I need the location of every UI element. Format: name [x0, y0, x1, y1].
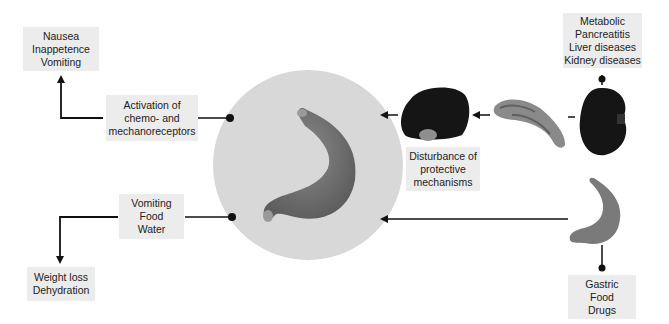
box-line: Inappetence: [23, 43, 99, 56]
kidney-icon: [580, 88, 627, 155]
box-line: protective: [406, 163, 480, 176]
box-line: Weight loss: [27, 271, 95, 284]
box-line: Kidney diseases: [563, 54, 642, 67]
box-line: Gastric: [568, 278, 636, 291]
connector-dot: [226, 114, 234, 122]
liver-icon: [401, 88, 469, 141]
connector-dot: [599, 265, 606, 272]
center-circle: [213, 70, 403, 260]
box-line: Pancreatitis: [563, 28, 642, 41]
gastric-causes-box: Gastric Food Drugs: [568, 275, 636, 319]
connector-dot: [599, 76, 606, 83]
box-line: Drugs: [568, 304, 636, 317]
box-line: Disturbance of: [406, 150, 480, 163]
clinical-signs-box: Nausea Inappetence Vomiting: [23, 27, 99, 71]
systemic-causes-box: Metabolic Pancreatitis Liver diseases Ki…: [563, 13, 642, 68]
connector-dot: [228, 213, 236, 221]
losses-box: Vomiting Food Water: [119, 194, 184, 239]
box-line: Activation of: [106, 99, 198, 112]
protective-mechanisms-box: Disturbance of protective mechanisms: [406, 147, 480, 191]
box-line: Metabolic: [563, 15, 642, 28]
outcome-box: Weight loss Dehydration: [27, 267, 95, 301]
box-line: mechanoreceptors: [106, 125, 198, 138]
box-line: Vomiting: [119, 197, 184, 210]
box-line: mechanisms: [406, 176, 480, 189]
box-line: Nausea: [23, 30, 99, 43]
small-stomach-icon: [570, 178, 621, 244]
box-line: Vomiting: [23, 56, 99, 69]
box-line: Food: [119, 210, 184, 223]
pancreas-icon: [494, 99, 565, 147]
receptor-activation-box: Activation of chemo- and mechanoreceptor…: [106, 95, 198, 141]
box-line: chemo- and: [106, 112, 198, 125]
box-line: Water: [119, 223, 184, 236]
box-line: Food: [568, 291, 636, 304]
box-line: Dehydration: [27, 284, 95, 297]
box-line: Liver diseases: [563, 41, 642, 54]
